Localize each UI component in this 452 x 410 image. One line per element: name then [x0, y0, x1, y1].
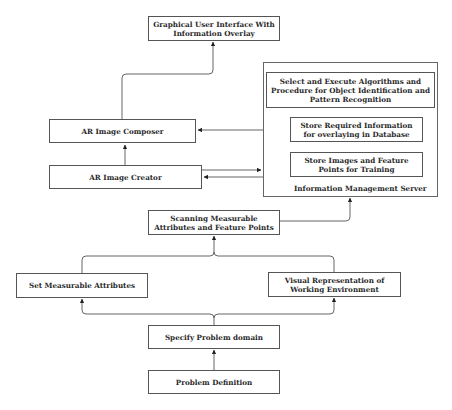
- visual-representation-node: Visual Representation of Working Environ…: [268, 272, 401, 297]
- server-title: Information Management Server: [294, 184, 427, 193]
- store-info-node: Store Required Information for overlayin…: [290, 117, 423, 142]
- gui-overlay-node: Graphical User Interface With Informatio…: [148, 16, 280, 41]
- store-images-node: Store Images and Feature Points for Trai…: [290, 152, 423, 177]
- algorithms-node: Select and Execute Algorithms and Proced…: [266, 72, 435, 108]
- ar-composer-node: AR Image Composer: [49, 119, 196, 143]
- specify-domain-node: Specify Problem domain: [148, 325, 280, 349]
- set-attributes-node: Set Measurable Attributes: [16, 273, 148, 298]
- scanning-node: Scanning Measurable Attributes and Featu…: [148, 210, 280, 235]
- ar-creator-node: AR Image Creator: [49, 165, 202, 189]
- problem-definition-node: Problem Definition: [148, 370, 280, 394]
